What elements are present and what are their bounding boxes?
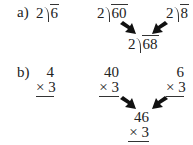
arrow-down-right-icon <box>120 96 136 109</box>
multiplier: × 3 <box>128 125 149 142</box>
arrow-down-left-icon <box>152 96 168 109</box>
multiplier: × 3 <box>36 80 54 97</box>
arrow-down-right-icon <box>120 21 136 34</box>
multiplication-4-times-3: 4 × 3 <box>36 65 54 97</box>
multiplicand: 6 <box>166 65 184 80</box>
dividend: 68 <box>142 35 159 52</box>
divisor: 2 <box>36 6 44 21</box>
division-2-into-8: 2 8 <box>166 4 189 21</box>
arrow-down-left-icon <box>152 21 168 34</box>
division-2-into-60: 2 60 <box>97 4 128 21</box>
division-bracket-icon <box>44 7 49 22</box>
multiplicand: 40 <box>99 65 119 80</box>
divisor: 2 <box>166 6 174 21</box>
divisor: 2 <box>97 6 105 21</box>
division-bracket-icon <box>105 7 110 22</box>
dividend: 6 <box>50 4 60 21</box>
multiplicand: 4 <box>36 65 54 80</box>
part-a-label: a) <box>17 5 29 20</box>
multiplication-40-times-3: 40 × 3 <box>99 65 119 97</box>
division-2-into-68: 2 68 <box>128 35 159 52</box>
division-bracket-icon <box>136 38 141 53</box>
division-2-into-6: 2 6 <box>36 4 59 21</box>
dividend: 8 <box>180 4 190 21</box>
multiplication-46-times-3: 46 × 3 <box>128 110 149 142</box>
multiplicand: 46 <box>128 110 149 125</box>
divisor: 2 <box>128 37 136 52</box>
dividend: 60 <box>111 4 128 21</box>
multiplier: × 3 <box>166 80 184 97</box>
division-bracket-icon <box>174 7 179 22</box>
part-b-label: b) <box>17 65 30 80</box>
multiplier: × 3 <box>99 80 119 97</box>
multiplication-6-times-3: 6 × 3 <box>166 65 184 97</box>
